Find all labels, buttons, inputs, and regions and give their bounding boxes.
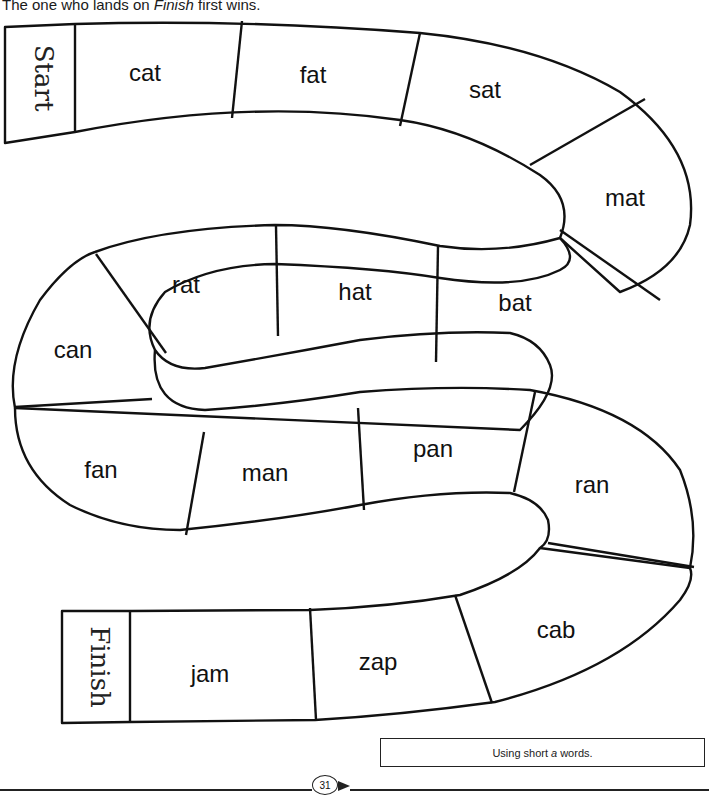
finish-label: Finish [85, 626, 115, 708]
space-can: can [54, 336, 93, 363]
space-cat: cat [129, 59, 161, 86]
space-mat: mat [605, 184, 645, 211]
space-cab: cab [537, 616, 576, 643]
space-rat: rat [172, 271, 200, 298]
space-jam: jam [190, 660, 230, 687]
space-fat: fat [300, 61, 327, 88]
space-dividers [15, 21, 694, 722]
space-pan: pan [413, 435, 453, 462]
footer-rule-right [350, 789, 709, 791]
skill-emphasis: a [551, 747, 557, 759]
pencil-icon [338, 781, 350, 791]
track-outline-bottom [62, 548, 691, 723]
start-label: Start [29, 45, 59, 112]
space-man: man [242, 459, 289, 486]
page-number: 31 [319, 780, 330, 791]
space-hat: hat [338, 278, 372, 305]
space-sat: sat [469, 76, 501, 103]
page-number-badge: 31 [312, 775, 338, 795]
space-zap: zap [359, 648, 398, 675]
space-ran: ran [575, 471, 610, 498]
skill-box: Using shortawords. [380, 738, 705, 767]
skill-suffix: words. [560, 747, 592, 759]
footer-rule-left [0, 789, 312, 791]
skill-prefix: Using short [492, 747, 548, 759]
space-bat: bat [498, 289, 532, 316]
space-fan: fan [84, 456, 117, 483]
track-outline-top [5, 23, 691, 292]
game-board: Start Finish cat fat sat mat bat hat rat… [0, 0, 709, 796]
